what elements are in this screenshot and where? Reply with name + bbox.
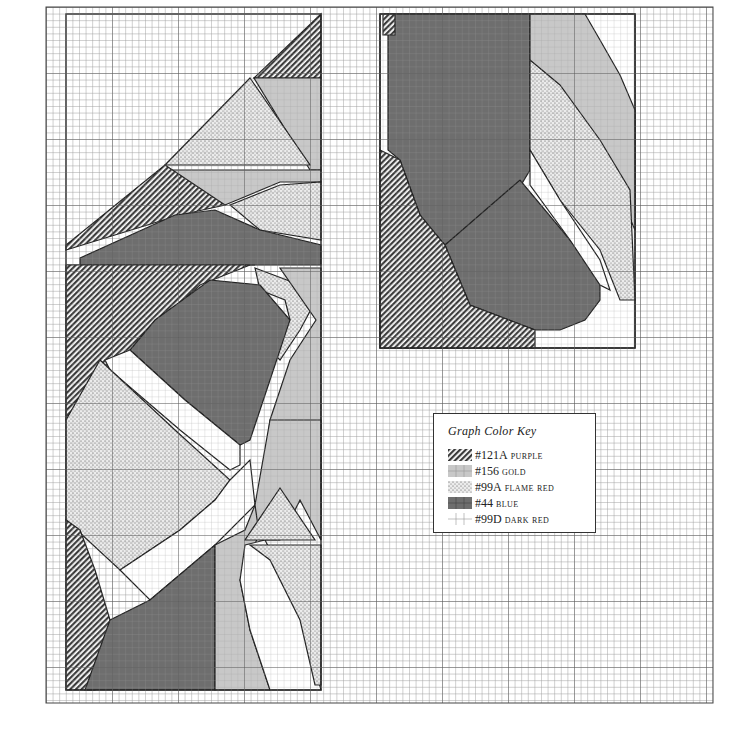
graph-color-key: Graph Color Key #121A purple #156 gold #…	[433, 413, 596, 533]
dotted-swatch-icon	[448, 481, 472, 493]
blank-grid-swatch-icon	[448, 513, 472, 525]
dark-gray-swatch-icon	[448, 497, 472, 509]
key-item-gold: #156 gold	[448, 463, 595, 479]
key-item-blue: #44 blue	[448, 495, 595, 511]
key-item-dark-red: #99D dark red	[448, 511, 595, 527]
needlepoint-graph	[0, 0, 756, 736]
key-title: Graph Color Key	[448, 424, 595, 439]
major-grid-overlay	[46, 7, 713, 703]
light-gray-swatch-icon	[448, 465, 472, 477]
key-item-flame-red: #99A flame red	[448, 479, 595, 495]
key-item-purple: #121A purple	[448, 447, 595, 463]
diagonal-hatch-swatch-icon	[448, 449, 472, 461]
